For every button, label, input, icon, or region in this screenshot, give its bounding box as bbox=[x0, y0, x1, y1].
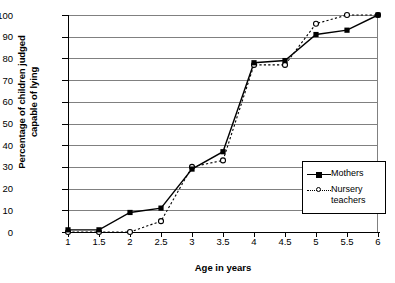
legend-marker-filled-square-icon bbox=[307, 169, 331, 180]
data-series-layer bbox=[0, 0, 395, 283]
legend-item-nursery-teachers: Nursery teachers bbox=[303, 182, 385, 208]
data-point-nursery-teachers bbox=[314, 21, 319, 26]
data-point-mothers bbox=[375, 12, 380, 17]
legend-label-mothers: Mothers bbox=[331, 168, 364, 179]
data-point-nursery-teachers bbox=[345, 13, 350, 18]
chart-legend: Mothers Nursery teachers bbox=[302, 161, 386, 214]
data-point-mothers bbox=[189, 166, 194, 171]
data-point-mothers bbox=[251, 60, 256, 65]
data-point-mothers bbox=[127, 210, 132, 215]
data-point-mothers bbox=[65, 227, 70, 232]
legend-marker-open-circle-icon bbox=[307, 185, 331, 196]
data-point-mothers bbox=[96, 227, 101, 232]
data-point-mothers bbox=[220, 149, 225, 154]
data-point-nursery-teachers bbox=[159, 219, 164, 224]
data-point-mothers bbox=[313, 32, 318, 37]
data-point-nursery-teachers bbox=[128, 230, 133, 235]
legend-item-mothers: Mothers bbox=[303, 166, 385, 182]
data-point-mothers bbox=[158, 206, 163, 211]
data-point-mothers bbox=[282, 58, 287, 63]
data-point-nursery-teachers bbox=[221, 158, 226, 163]
legend-label-nursery-teachers: Nursery teachers bbox=[331, 184, 366, 206]
chart-container: Percentage of children judged capable of… bbox=[0, 0, 395, 283]
data-point-mothers bbox=[344, 28, 349, 33]
